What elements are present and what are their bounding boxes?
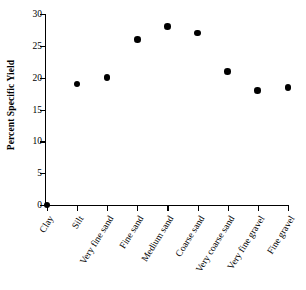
y-tick-label: 30 (33, 9, 43, 19)
data-point (194, 30, 201, 37)
x-tick-label: Clay (37, 214, 55, 235)
y-axis-line (45, 14, 46, 206)
x-tick-mark (137, 205, 138, 211)
y-tick-label: 25 (33, 41, 43, 51)
y-tick-label: 0 (37, 200, 42, 210)
x-tick-label: Coarse sand (173, 214, 206, 258)
data-point (74, 81, 81, 88)
x-tick-mark (107, 205, 108, 211)
x-tick-label: Medium sand (140, 214, 176, 263)
y-tick-label: 15 (33, 105, 43, 115)
x-tick-label: Silt (70, 214, 85, 230)
x-tick-mark (288, 205, 289, 211)
y-axis-title-text: Percent Specific Yield (6, 60, 16, 151)
y-axis-title: Percent Specific Yield (0, 0, 22, 210)
x-tick-mark (228, 205, 229, 211)
x-tick-mark (258, 205, 259, 211)
x-tick-label: Fine sand (118, 214, 146, 250)
data-point (134, 36, 141, 43)
data-point (164, 23, 171, 30)
data-point (224, 68, 231, 75)
x-tick-mark (167, 205, 168, 211)
data-point (254, 87, 261, 94)
x-tick-label: Fine gravel (265, 214, 296, 256)
data-point (285, 84, 292, 91)
plot-area: 051015202530 ClaySiltVery fine sandFine … (45, 14, 290, 205)
data-point (44, 202, 51, 209)
x-tick-mark (77, 205, 78, 211)
y-tick-label: 5 (37, 168, 42, 178)
y-tick-label: 20 (33, 73, 43, 83)
y-tick-label: 10 (33, 136, 43, 146)
data-point (104, 74, 111, 81)
specific-yield-scatter-chart: Percent Specific Yield 051015202530 Clay… (0, 0, 306, 290)
x-tick-mark (198, 205, 199, 211)
